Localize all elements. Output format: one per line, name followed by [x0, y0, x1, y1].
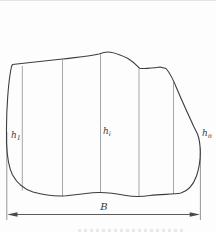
label-ordinate-first-sub: 1 — [17, 134, 21, 142]
label-ordinate-middle: hi — [103, 127, 111, 138]
label-base-width: B — [0, 201, 208, 212]
arrowhead-right-icon — [190, 212, 200, 217]
figure-canvas: h1 hi hn B — [0, 0, 216, 232]
blob-outline — [7, 52, 201, 196]
caption-fragment-smudge — [78, 229, 184, 232]
label-ordinate-last: hn — [202, 129, 212, 140]
label-ordinate-last-sub: n — [208, 132, 212, 140]
label-ordinate-first: h1 — [11, 131, 21, 142]
area-diagram-svg — [0, 0, 216, 232]
arrowhead-left-icon — [7, 212, 17, 217]
label-ordinate-middle-sub: i — [109, 130, 111, 138]
